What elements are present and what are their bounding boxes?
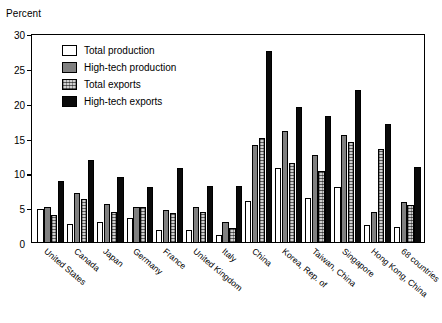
x-axis-label-cell: Italy [214,245,244,323]
bar [341,135,347,243]
bar-group [36,35,66,243]
x-axis-labels: United StatesCanadaJapanGermanyFranceUni… [31,245,425,323]
x-axis-label-cell: United Kingdom [184,245,214,323]
bar [37,209,43,243]
bar [111,212,117,243]
x-axis-label-cell: Canada [65,245,95,323]
x-axis-label: Italy [221,247,239,264]
y-axis-tick-label: 15 [0,134,25,145]
bar-group [184,35,214,243]
bar-group [125,35,155,243]
bar [74,193,80,243]
bar [127,218,133,243]
x-axis-label-cell: 68 countries [392,245,422,323]
x-axis-label-cell: Singapore [333,245,363,323]
bar [229,228,235,243]
x-axis-label-cell: Taiwan, China [303,245,333,323]
bar-group [363,35,393,243]
y-axis-tick-label: 0 [0,239,25,250]
bar [170,213,176,243]
bar [245,201,251,243]
bar [44,207,50,243]
bar [334,187,340,243]
bar-group [392,35,422,243]
x-axis-label-cell: Germany [124,245,154,323]
x-axis-label: 68 countries [399,247,441,284]
bar [97,222,103,243]
x-axis-label: Japan [102,247,126,269]
bar [81,199,87,243]
bar [117,177,123,243]
bar [51,215,57,243]
bar [355,90,361,243]
bar [67,224,73,244]
y-axis-tick-label: 30 [0,30,25,41]
bar-group [333,35,363,243]
plot-area: 051015202530 Total production High-tech … [31,34,425,243]
bar [282,131,288,243]
x-axis-label-cell: Hong Kong, China [362,245,392,323]
bar [289,163,295,243]
bar [216,235,222,243]
x-axis-label-cell: China [243,245,273,323]
bar [58,181,64,243]
bar [394,227,400,243]
bar [140,207,146,243]
bar-groups [32,35,425,243]
bar [252,145,258,243]
bar [364,225,370,243]
bar [147,187,153,243]
bar [266,51,272,243]
bar-group [274,35,304,243]
bar-group [214,35,244,243]
bar [133,207,139,243]
bar [325,116,331,243]
bar [401,202,407,243]
bar [385,124,391,243]
bar-group [95,35,125,243]
y-axis-tick-label: 10 [0,169,25,180]
bar [407,205,413,243]
bar [193,207,199,243]
bar [305,198,311,243]
bar [186,230,192,243]
bar [163,210,169,243]
bar [177,168,183,243]
x-axis-label: China [250,247,273,268]
x-axis-label-cell: Japan [95,245,125,323]
bar [371,212,377,243]
bar [414,167,420,243]
bar [236,186,242,243]
bar [259,138,265,243]
x-axis-label-cell: United States [35,245,65,323]
bar [88,160,94,243]
y-axis-tick-label: 25 [0,64,25,75]
bar [296,107,302,243]
y-axis-tick-label: 20 [0,99,25,110]
bar [275,168,281,243]
bar-group [155,35,185,243]
bar [312,155,318,243]
bar [207,186,213,243]
bar-group [244,35,274,243]
y-axis-tick-label: 5 [0,204,25,215]
bar [348,142,354,243]
bar-group [66,35,96,243]
bar [156,230,162,243]
bar [378,149,384,243]
bar [200,212,206,243]
x-axis-label-cell: France [154,245,184,323]
bar [104,204,110,243]
bar [318,171,324,243]
bar [222,222,228,243]
bar-group [303,35,333,243]
x-axis-label-cell: Korea, Rep. of [273,245,303,323]
y-axis-title: Percent [6,8,41,19]
